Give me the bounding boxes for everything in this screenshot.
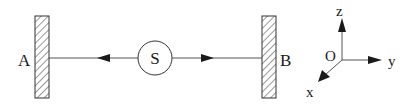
wall-a-label: A: [18, 51, 31, 70]
wall-a: [35, 16, 49, 98]
wall-b-label: B: [280, 51, 291, 70]
source-label: S: [150, 49, 159, 68]
axis-z-label: z: [336, 3, 343, 19]
axis-x-label: x: [306, 84, 314, 100]
arrow-right-icon: [201, 54, 214, 62]
y-axis-arrow-icon: [368, 56, 382, 64]
physics-diagram: A B S z y x O: [0, 0, 415, 108]
axis-y-label: y: [388, 53, 396, 69]
wall-b: [262, 16, 276, 98]
axis-origin-label: O: [325, 48, 336, 64]
arrow-left-icon: [97, 54, 110, 62]
z-axis-arrow-icon: [338, 18, 346, 32]
